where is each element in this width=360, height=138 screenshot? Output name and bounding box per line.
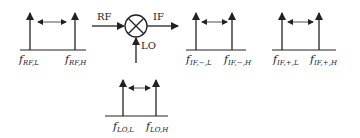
lo-high-label: fLO,H bbox=[145, 120, 169, 134]
lo-input-label: LO bbox=[141, 40, 156, 51]
if-minus-spectrum: fIF,−,L fIF,−,H bbox=[185, 13, 252, 67]
if-minus-high-label: fIF,−,H bbox=[223, 53, 252, 67]
rf-high-label: fRF,H bbox=[64, 53, 87, 67]
if-plus-low-label: fIF,+,L bbox=[272, 53, 299, 67]
if-plus-high-label: fIF,+,H bbox=[309, 53, 338, 67]
if-minus-low-label: fIF,−,L bbox=[185, 53, 212, 67]
rf-input-label: RF bbox=[97, 11, 112, 22]
mixer-diagram: fRF,L fRF,H RF IF LO fIF,−,L fIF,−,H fIF… bbox=[0, 0, 360, 138]
if-output-label: IF bbox=[153, 11, 164, 22]
lo-spectrum: fLO,L fLO,H bbox=[105, 80, 169, 134]
rf-spectrum: fRF,L fRF,H bbox=[18, 13, 87, 67]
rf-low-label: fRF,L bbox=[18, 53, 39, 67]
if-plus-spectrum: fIF,+,L fIF,+,H bbox=[272, 13, 338, 67]
mixer: RF IF LO bbox=[92, 11, 178, 63]
lo-low-label: fLO,L bbox=[112, 120, 134, 134]
